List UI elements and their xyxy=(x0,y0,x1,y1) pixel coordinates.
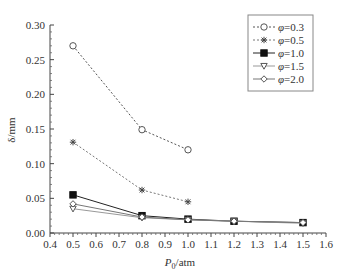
series-line xyxy=(73,46,188,150)
asterisk-marker-icon xyxy=(139,187,145,193)
x-tick-label: 0.4 xyxy=(43,238,57,250)
line-chart: 0.40.50.60.70.80.91.01.11.21.31.41.51.60… xyxy=(0,0,345,277)
x-tick-label: 0.6 xyxy=(89,238,103,250)
legend-label: φ=1.5 xyxy=(278,60,305,72)
x-tick-label: 0.5 xyxy=(66,238,80,250)
y-tick-label: 0.00 xyxy=(26,227,46,239)
y-tick-label: 0.20 xyxy=(26,88,46,100)
asterisk-marker-icon xyxy=(261,37,267,43)
y-tick-label: 0.25 xyxy=(26,54,46,66)
x-tick-label: 0.7 xyxy=(112,238,126,250)
y-tick-label: 0.10 xyxy=(26,158,46,170)
legend-label: φ=0.5 xyxy=(278,34,305,46)
x-axis-label: P0/atm xyxy=(164,256,196,271)
x-tick-label: 1.1 xyxy=(204,238,218,250)
x-tick-label: 1.4 xyxy=(273,238,287,250)
x-tick-label: 0.8 xyxy=(135,238,149,250)
series-1 xyxy=(70,139,191,205)
y-tick-label: 0.30 xyxy=(26,19,46,31)
y-tick-label: 0.05 xyxy=(26,192,46,204)
x-tick-label: 1.5 xyxy=(296,238,310,250)
filled-square-marker-icon xyxy=(70,192,76,198)
series-0 xyxy=(70,43,191,153)
open-circle-marker-icon xyxy=(70,43,76,49)
open-circle-marker-icon xyxy=(261,24,267,30)
series-line xyxy=(73,142,188,202)
legend-label: φ=2.0 xyxy=(278,73,305,85)
asterisk-marker-icon xyxy=(185,199,191,205)
x-tick-label: 1.2 xyxy=(227,238,241,250)
x-tick-label: 0.9 xyxy=(158,238,172,250)
x-tick-label: 1.3 xyxy=(250,238,264,250)
legend-label: φ=1.0 xyxy=(278,47,305,59)
legend: φ=0.3φ=0.5φ=1.0φ=1.5φ=2.0 xyxy=(248,15,313,91)
legend-label: φ=0.3 xyxy=(278,21,305,33)
open-circle-marker-icon xyxy=(185,147,191,153)
x-tick-label: 1.0 xyxy=(181,238,195,250)
asterisk-marker-icon xyxy=(70,139,76,145)
x-tick-label: 1.6 xyxy=(319,238,333,250)
y-axis-label: δ/mm xyxy=(5,117,17,143)
y-tick-label: 0.15 xyxy=(26,123,46,135)
open-circle-marker-icon xyxy=(139,126,145,132)
filled-square-marker-icon xyxy=(261,50,267,56)
